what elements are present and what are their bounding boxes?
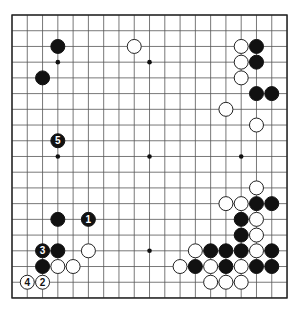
white-stone[interactable] xyxy=(188,244,202,258)
white-stone-icon xyxy=(204,260,218,274)
white-stone[interactable] xyxy=(204,275,218,289)
white-stone[interactable] xyxy=(234,275,248,289)
move-number-label: 5 xyxy=(55,135,61,146)
black-stone[interactable] xyxy=(36,260,50,274)
move-number-label: 2 xyxy=(40,277,46,288)
star-point xyxy=(56,154,61,159)
star-point xyxy=(147,154,152,159)
white-stone-icon xyxy=(249,212,263,226)
white-stone[interactable] xyxy=(127,39,141,53)
white-stone-icon xyxy=(188,244,202,258)
black-stone[interactable] xyxy=(204,244,218,258)
black-stone-move-1[interactable]: 1 xyxy=(81,212,95,226)
black-stone[interactable] xyxy=(234,244,248,258)
white-stone-icon xyxy=(249,118,263,132)
white-stone-move-2[interactable]: 2 xyxy=(36,275,50,289)
black-stone[interactable] xyxy=(249,197,263,211)
white-stone-icon xyxy=(127,39,141,53)
black-stone-icon xyxy=(265,197,279,211)
black-stone-icon xyxy=(234,244,248,258)
black-stone-icon xyxy=(234,228,248,242)
black-stone[interactable] xyxy=(188,260,202,274)
white-stone[interactable] xyxy=(249,118,263,132)
black-stone-icon xyxy=(249,87,263,101)
white-stone[interactable] xyxy=(81,244,95,258)
black-stone[interactable] xyxy=(51,212,65,226)
black-stone-icon xyxy=(51,39,65,53)
black-stone-icon xyxy=(249,39,263,53)
white-stone-icon xyxy=(204,275,218,289)
black-stone[interactable] xyxy=(234,228,248,242)
black-stone-icon xyxy=(51,244,65,258)
black-stone[interactable] xyxy=(265,197,279,211)
white-stone[interactable] xyxy=(234,39,248,53)
black-stone-icon xyxy=(249,260,263,274)
black-stone[interactable] xyxy=(265,87,279,101)
white-stone-icon xyxy=(234,71,248,85)
white-stone-icon xyxy=(234,55,248,69)
black-stone[interactable] xyxy=(249,260,263,274)
white-stone-icon xyxy=(234,39,248,53)
white-stone[interactable] xyxy=(66,260,80,274)
star-point xyxy=(56,60,61,65)
white-stone-icon xyxy=(81,244,95,258)
white-stone[interactable] xyxy=(204,260,218,274)
white-stone-icon xyxy=(219,197,233,211)
white-stone[interactable] xyxy=(249,212,263,226)
white-stone-icon xyxy=(234,197,248,211)
white-stone[interactable] xyxy=(234,71,248,85)
black-stone-move-3[interactable]: 3 xyxy=(36,244,50,258)
black-stone[interactable] xyxy=(219,244,233,258)
black-stone-icon xyxy=(249,197,263,211)
black-stone[interactable] xyxy=(249,39,263,53)
white-stone-icon xyxy=(173,260,187,274)
black-stone-icon xyxy=(36,71,50,85)
white-stone[interactable] xyxy=(249,244,263,258)
black-stone-icon xyxy=(204,244,218,258)
black-stone[interactable] xyxy=(219,260,233,274)
white-stone[interactable] xyxy=(249,228,263,242)
black-stone[interactable] xyxy=(265,260,279,274)
black-stone-icon xyxy=(51,212,65,226)
black-stone-icon xyxy=(265,244,279,258)
black-stone[interactable] xyxy=(249,87,263,101)
star-point xyxy=(147,60,152,65)
black-stone-icon xyxy=(234,212,248,226)
black-stone[interactable] xyxy=(36,71,50,85)
white-stone[interactable] xyxy=(234,197,248,211)
black-stone-icon xyxy=(265,87,279,101)
white-stone[interactable] xyxy=(234,55,248,69)
white-stone-icon xyxy=(66,260,80,274)
black-stone-icon xyxy=(265,260,279,274)
black-stone[interactable] xyxy=(51,244,65,258)
star-point xyxy=(239,154,244,159)
white-stone[interactable] xyxy=(51,260,65,274)
black-stone-icon xyxy=(36,260,50,274)
white-stone-icon xyxy=(234,275,248,289)
white-stone-icon xyxy=(249,244,263,258)
white-stone[interactable] xyxy=(249,181,263,195)
black-stone-move-5[interactable]: 5 xyxy=(51,134,65,148)
black-stone[interactable] xyxy=(249,55,263,69)
white-stone[interactable] xyxy=(234,260,248,274)
white-stone[interactable] xyxy=(219,275,233,289)
black-stone-icon xyxy=(249,55,263,69)
white-stone-icon xyxy=(234,260,248,274)
move-number-label: 4 xyxy=(24,277,30,288)
white-stone[interactable] xyxy=(173,260,187,274)
white-stone-move-4[interactable]: 4 xyxy=(20,275,34,289)
black-stone-icon xyxy=(219,260,233,274)
white-stone-icon xyxy=(51,260,65,274)
move-number-label: 1 xyxy=(86,214,92,225)
go-board[interactable]: 51342 xyxy=(0,0,301,310)
black-stone-icon xyxy=(188,260,202,274)
black-stone[interactable] xyxy=(51,39,65,53)
white-stone[interactable] xyxy=(219,197,233,211)
black-stone-icon xyxy=(219,244,233,258)
star-point xyxy=(147,249,152,254)
white-stone-icon xyxy=(249,181,263,195)
black-stone[interactable] xyxy=(265,244,279,258)
white-stone-icon xyxy=(219,275,233,289)
white-stone[interactable] xyxy=(219,102,233,116)
black-stone[interactable] xyxy=(234,212,248,226)
